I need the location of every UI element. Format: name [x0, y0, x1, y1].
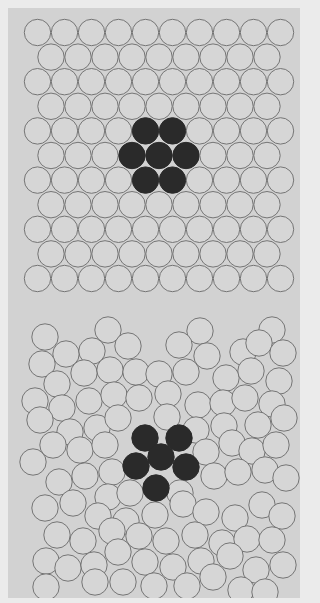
random-circle [67, 437, 93, 463]
lattice-circle [200, 142, 226, 168]
lattice-circle [92, 142, 118, 168]
lattice-circle [119, 93, 145, 119]
lattice-circle [267, 19, 293, 45]
lattice-circle [173, 192, 199, 218]
lattice-circle [186, 19, 212, 45]
dark-circle [132, 118, 158, 144]
lattice-circle [51, 69, 77, 95]
lattice-circle [267, 265, 293, 291]
random-circle [27, 407, 53, 433]
lattice-circle [200, 241, 226, 267]
random-circle [232, 385, 258, 411]
lattice-circle [78, 216, 104, 242]
lattice-circle [240, 118, 266, 144]
lattice-circle [132, 216, 158, 242]
random-circle [101, 382, 127, 408]
lattice-circle [51, 216, 77, 242]
random-circle [259, 527, 285, 553]
random-circle [141, 573, 167, 598]
dark-circle [173, 454, 199, 480]
lattice-circle [159, 19, 185, 45]
lattice-circle [38, 142, 64, 168]
random-circle [117, 480, 143, 506]
lattice-circle [227, 241, 253, 267]
random-circle [201, 463, 227, 489]
lattice-circle [213, 216, 239, 242]
lattice-circle [254, 93, 280, 119]
random-circle [105, 405, 131, 431]
lattice-circle [24, 265, 50, 291]
lattice-circle [186, 69, 212, 95]
random-circle [174, 573, 200, 598]
lattice-circle [186, 265, 212, 291]
random-circle [271, 405, 297, 431]
lattice-circle [227, 192, 253, 218]
random-circle [70, 528, 96, 554]
random-circle [263, 432, 289, 458]
lattice-circle [159, 265, 185, 291]
random-circle [32, 495, 58, 521]
lattice-circle [105, 19, 131, 45]
lattice-circle [186, 118, 212, 144]
lattice-circle [213, 265, 239, 291]
random-circle [153, 528, 179, 554]
lattice-circle [51, 167, 77, 193]
lattice-circle [38, 192, 64, 218]
lattice-circle [267, 167, 293, 193]
lattice-circle [146, 192, 172, 218]
lattice-circle [92, 192, 118, 218]
random-circle [33, 574, 59, 598]
random-circle [60, 490, 86, 516]
lattice-circle [92, 93, 118, 119]
lattice-circle [267, 118, 293, 144]
dark-circle [148, 444, 174, 470]
lattice-circle [132, 19, 158, 45]
lattice-circle [24, 167, 50, 193]
random-circle [270, 552, 296, 578]
random-circle [245, 412, 271, 438]
random-circle [193, 499, 219, 525]
dark-circle [143, 475, 169, 501]
lattice-circle [105, 69, 131, 95]
random-circle [246, 330, 272, 356]
dark-circle [159, 167, 185, 193]
lattice-circle [267, 69, 293, 95]
random-circle [55, 555, 81, 581]
lattice-circle [159, 69, 185, 95]
lattice-circle [24, 216, 50, 242]
random-circle [40, 432, 66, 458]
random-circle [213, 365, 239, 391]
random-circle [269, 503, 295, 529]
random-circle [126, 385, 152, 411]
lattice-circle [78, 69, 104, 95]
lattice-circle [105, 216, 131, 242]
lattice-circle [186, 167, 212, 193]
lattice-circle [119, 192, 145, 218]
lattice-circle [254, 44, 280, 70]
lattice-circle [186, 216, 212, 242]
lattice-circle [200, 44, 226, 70]
lattice-circle [38, 241, 64, 267]
random-circle [270, 340, 296, 366]
random-circle [105, 539, 131, 565]
lattice-circle [240, 216, 266, 242]
random-circle [71, 360, 97, 386]
random-circle [99, 459, 125, 485]
lattice-circle [254, 142, 280, 168]
random-circle [92, 432, 118, 458]
random-circle [185, 392, 211, 418]
random-circle [182, 522, 208, 548]
random-circle [225, 459, 251, 485]
random-circle [115, 333, 141, 359]
lattice-circle [119, 44, 145, 70]
lattice-circle [65, 44, 91, 70]
dark-circle [132, 167, 158, 193]
lattice-circle [78, 19, 104, 45]
lattice-circle [78, 167, 104, 193]
random-circle [32, 324, 58, 350]
random-circle [82, 569, 108, 595]
lattice-circle [267, 216, 293, 242]
random-circle [266, 368, 292, 394]
random-circle [273, 465, 299, 491]
lattice-circle [200, 93, 226, 119]
